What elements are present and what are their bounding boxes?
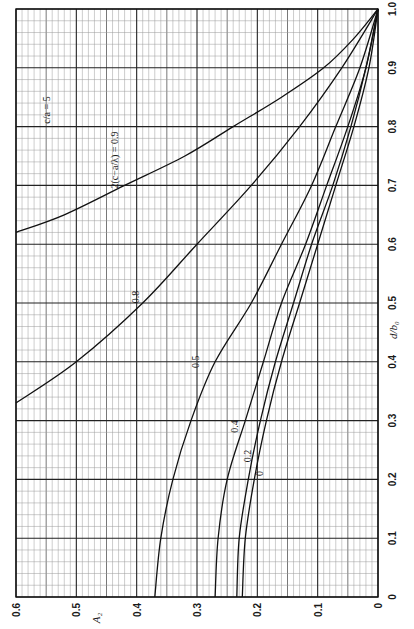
y-tick-label: 0.1 xyxy=(313,603,324,617)
x-tick: 0.7 xyxy=(387,178,398,192)
y-tick: 0.4 xyxy=(132,603,143,617)
y-axis-label: A₂ xyxy=(90,613,102,625)
y-tick-label: 0 xyxy=(373,603,384,609)
curve-label-text: 0.4 xyxy=(229,420,240,433)
y-tick-label: 0.4 xyxy=(132,603,143,617)
parameter-annotation-text: 2(c−a/λ) = 0.9 xyxy=(109,132,121,189)
chart: 0.80.50.40.20 00.10.20.30.40.50.60.70.80… xyxy=(0,0,414,629)
ratio-annotation-text: c/a = 5 xyxy=(41,96,52,123)
x-tick-label: 0.4 xyxy=(387,354,398,368)
x-tick: 0.2 xyxy=(387,472,398,486)
x-tick: 0.4 xyxy=(387,354,398,368)
x-tick: 0 xyxy=(387,594,398,600)
x-tick-label: 0 xyxy=(387,594,398,600)
y-tick: 0.5 xyxy=(71,603,82,617)
y-tick: 0.2 xyxy=(252,603,263,617)
x-tick: 0.9 xyxy=(387,60,398,74)
curve-label-0-2: 0.2 xyxy=(242,450,253,463)
x-tick: 0.3 xyxy=(387,413,398,427)
curve-label-text: 0.2 xyxy=(242,450,253,463)
x-tick-label: 0.7 xyxy=(387,178,398,192)
x-tick-label: 1.0 xyxy=(387,2,398,16)
x-tick-label: 0.5 xyxy=(387,296,398,310)
x-tick-label: 0.3 xyxy=(387,413,398,427)
x-tick-label: 0.8 xyxy=(387,119,398,133)
x-tick: 0.1 xyxy=(387,531,398,545)
x-tick-label: 0.1 xyxy=(387,531,398,545)
curve-label-0-8: 0.8 xyxy=(130,291,141,304)
y-tick: 0.1 xyxy=(313,603,324,617)
y-tick: 0 xyxy=(373,603,384,609)
x-tick-label: 0.9 xyxy=(387,60,398,74)
curve-label-0-4: 0.4 xyxy=(229,420,240,433)
x-axis-label: d/b₀ xyxy=(387,321,399,339)
x-tick-labels: 00.10.20.30.40.50.60.70.80.91.0 xyxy=(387,2,398,600)
x-tick: 0.6 xyxy=(387,237,398,251)
y-tick: 0.3 xyxy=(192,603,203,617)
y-tick-label: 0.6 xyxy=(11,603,22,617)
y-tick-label: 0.3 xyxy=(192,603,203,617)
x-tick: 0.5 xyxy=(387,296,398,310)
y-tick-labels: 00.10.20.30.40.50.6 xyxy=(11,603,384,617)
ratio-annotation: c/a = 5 xyxy=(41,96,52,123)
y-axis-label-text: A₂ xyxy=(90,613,102,625)
x-tick: 1.0 xyxy=(387,2,398,16)
curve-label-text: 0.5 xyxy=(190,356,201,369)
curve-label-text: 0 xyxy=(254,471,265,476)
curve-label-0-5: 0.5 xyxy=(190,356,201,369)
parameter-annotation: 2(c−a/λ) = 0.9 xyxy=(109,132,121,189)
x-tick-label: 0.2 xyxy=(387,472,398,486)
y-tick-label: 0.2 xyxy=(252,603,263,617)
y-tick: 0.6 xyxy=(11,603,22,617)
x-axis-label-text: d/b₀ xyxy=(387,321,399,339)
curve-label-0: 0 xyxy=(254,471,265,476)
x-tick: 0.8 xyxy=(387,119,398,133)
y-tick-label: 0.5 xyxy=(71,603,82,617)
x-tick-label: 0.6 xyxy=(387,237,398,251)
curve-label-text: 0.8 xyxy=(130,291,141,304)
